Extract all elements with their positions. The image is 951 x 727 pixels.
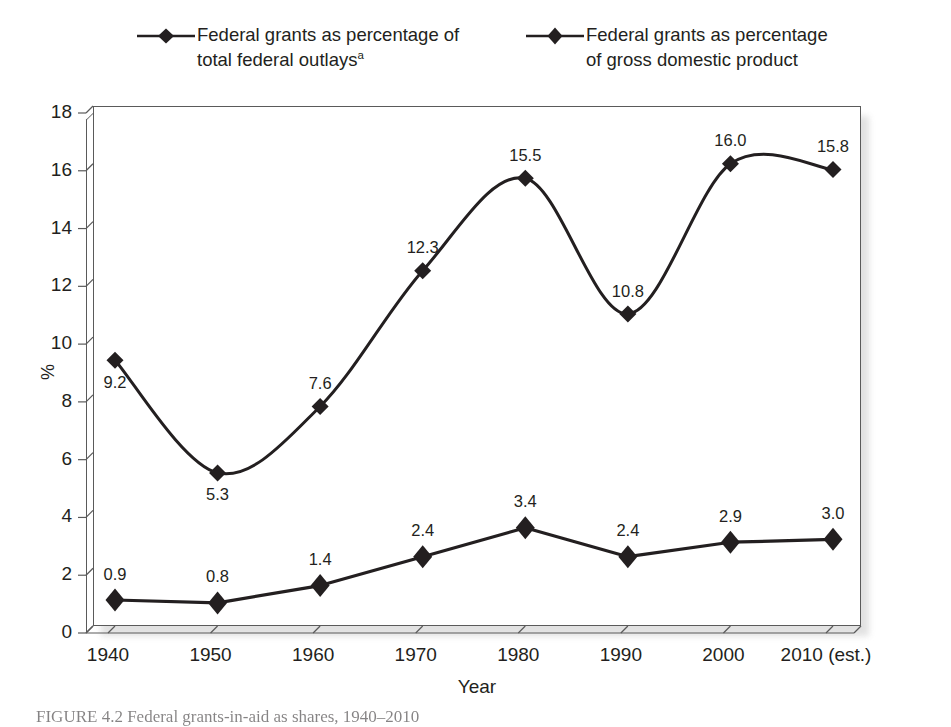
data-point-label: 3.4 [514,492,537,511]
data-point-marker [825,161,842,178]
y-axis-tick-label: 0 [26,621,72,643]
y-axis-tick-label: 14 [26,217,72,239]
series-layer [106,154,843,614]
data-point-label: 2.9 [719,507,742,526]
data-point-label: 7.6 [309,374,332,393]
data-point-marker [517,170,534,187]
data-point-label: 9.2 [104,373,127,392]
figure-container: Federal grants as percentage of total fe… [0,0,951,727]
y-axis-tick-label: 4 [26,505,72,527]
x-axis-title: Year [417,676,537,698]
data-point-marker [209,464,226,481]
data-point-label: 2.4 [411,521,434,540]
data-point-marker [619,306,636,323]
x-axis-tick-label: 1940 [87,644,129,666]
y-axis-tick-label: 8 [26,390,72,412]
data-point-marker [618,545,637,568]
x-axis-tick-label: 1990 [600,644,642,666]
x-axis-tick-label: 1960 [292,644,334,666]
data-point-label: 15.8 [817,137,849,156]
axis-layer [78,106,861,633]
y-axis-tick-label: 10 [26,332,72,354]
figure-caption: FIGURE 4.2 Federal grants-in-aid as shar… [36,707,936,727]
chart-canvas [0,0,951,727]
data-point-label: 0.9 [104,565,127,584]
y-axis-tick-label: 16 [26,159,72,181]
y-axis-tick-label: 6 [26,448,72,470]
data-point-marker [824,528,843,551]
data-point-marker [106,589,125,612]
data-point-label: 1.4 [309,550,332,569]
data-point-label: 0.8 [206,567,229,586]
x-axis-tick-label: 1950 [189,644,231,666]
figure-caption-text: FIGURE 4.2 Federal grants-in-aid as shar… [36,707,419,726]
data-point-marker [516,516,535,539]
data-point-marker [208,591,227,614]
y-axis-tick-label: 18 [26,101,72,123]
data-point-label: 5.3 [206,485,229,504]
data-point-label: 10.8 [612,282,644,301]
x-axis-tick-label: 1980 [497,644,539,666]
data-point-label: 3.0 [822,504,845,523]
data-point-marker [311,574,330,597]
x-axis-tick-label: 2000 [702,644,744,666]
data-point-label: 2.4 [616,521,639,540]
data-point-label: 12.3 [407,238,439,257]
data-point-label: 15.5 [509,146,541,165]
data-point-marker [413,545,432,568]
y-axis-title: % [38,364,59,380]
y-axis-tick-label: 12 [26,274,72,296]
y-axis-tick-label: 2 [26,563,72,585]
x-axis-tick-label: 1970 [395,644,437,666]
x-axis-tick-label: 2010 (est.) [781,644,872,666]
data-point-label: 16.0 [714,131,746,150]
data-point-marker [721,531,740,554]
